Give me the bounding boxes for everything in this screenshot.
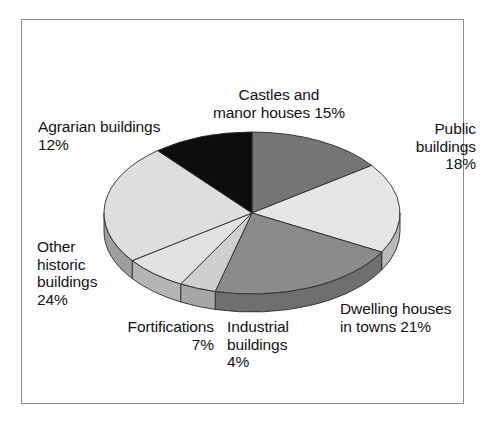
slice-label-agrarian-buildings: Agrarian buildings 12% [38,118,206,153]
slice-label-industrial-buildings: Industrial buildings 4% [227,318,339,371]
pie-chart-figure: Castles and manor houses 15% Public buil… [0,0,486,425]
slice-label-other-historic-buildings: Other historic buildings 24% [37,238,147,308]
slice-label-fortifications: Fortifications 7% [86,318,214,353]
slice-label-castles: Castles and manor houses 15% [186,86,372,121]
slice-label-dwelling-houses: Dwelling houses in towns 21% [340,300,482,335]
slice-label-public-buildings: Public buildings 18% [330,120,476,173]
